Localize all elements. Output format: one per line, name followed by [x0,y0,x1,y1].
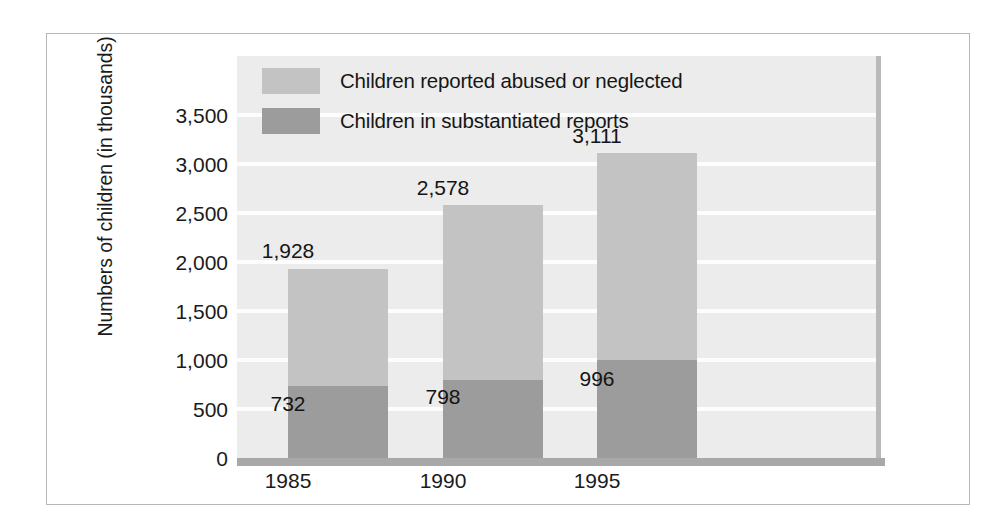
gridline-2500 [237,211,880,215]
gridline-3000 [237,162,880,166]
value-label-substantiated-1995: 996 [517,368,677,389]
legend-swatch-substantiated-icon [262,108,320,134]
x-axis-line [237,458,885,466]
legend-swatch-reported-icon [262,68,320,94]
y-tick-3500: 3,500 [138,105,228,126]
value-label-total-1985: 1,928 [208,240,368,261]
stacked-bar-chart: Numbers of children (in thousands) 3,500… [0,0,997,528]
x-tick-1985: 1985 [208,470,368,491]
legend-item-reported[interactable]: Children reported abused or neglected [262,62,732,100]
bar-group-1995[interactable] [597,153,697,458]
plot-right-border [876,56,881,458]
y-tick-0: 0 [138,448,228,469]
x-tick-1995: 1995 [517,470,677,491]
value-label-substantiated-1985: 732 [208,393,368,414]
y-tick-3000: 3,000 [138,154,228,175]
y-axis-tick-labels: 3,500 3,000 2,500 2,000 1,500 1,000 500 … [140,0,228,528]
y-tick-1000: 1,000 [138,350,228,371]
legend-item-substantiated[interactable]: Children in substantiated reports [262,102,732,140]
value-label-total-1990: 2,578 [363,177,523,198]
legend-label-substantiated: Children in substantiated reports [340,109,629,133]
chart-legend: Children reported abused or neglected Ch… [262,62,732,142]
y-tick-1500: 1,500 [138,301,228,322]
y-axis-title: Numbers of children (in thousands) [94,22,117,352]
y-tick-2500: 2,500 [138,203,228,224]
legend-label-reported: Children reported abused or neglected [340,69,682,93]
x-tick-1990: 1990 [363,470,523,491]
bar-group-1985[interactable] [288,269,388,458]
value-label-substantiated-1990: 798 [363,386,523,407]
bar-group-1990[interactable] [443,205,543,458]
